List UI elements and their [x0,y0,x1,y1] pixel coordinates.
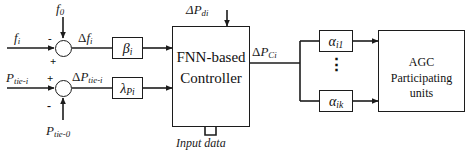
summing-junction-frequency-plus-sign: + [50,56,56,67]
agc-title-line1: AGC [379,55,464,70]
summing-junction-tie-power [55,80,72,97]
gain-block-lambda-label: λPi [113,81,142,97]
input-label-frequency-actual: fi [14,31,20,46]
alpha-vertical-ellipsis: ⋮ [319,60,353,69]
alpha-block-ik-label: αik [320,94,352,110]
input-label-tie-power-actual: Ptie-i [6,71,28,86]
summing-junction-tie-power-minus-sign: - [47,100,51,112]
fnn-controller-block[interactable]: FNN-based Controller [172,26,250,127]
input-label-frequency-reference: f0 [56,2,64,17]
input-label-tie-power-reference: Ptie-0 [46,124,70,139]
summing-junction-frequency [55,40,72,57]
signal-label-delta-f: Δfi [78,31,92,46]
signal-label-delta-pc: ΔPCi [252,45,277,60]
signal-label-delta-ptie: ΔPtie-i [72,70,103,85]
alpha-block-ik[interactable]: αik [319,90,353,112]
agc-title-line2: Participating units [379,71,464,101]
alpha-block-i1-label: αi1 [320,34,352,50]
alpha-block-i1[interactable]: αi1 [319,30,353,52]
gain-block-lambda[interactable]: λPi [112,77,143,99]
input-label-load-disturbance: ΔPdi [186,3,208,18]
fnn-controller-title-line1: FNN-based [173,49,249,66]
input-data-label: Input data [176,137,226,149]
summing-junction-frequency-minus-sign: - [48,33,52,44]
fnn-controller-title-line2: Controller [173,70,249,87]
agc-participating-units-block[interactable]: AGC Participating units [378,30,465,112]
gain-block-beta[interactable]: βi [112,37,143,59]
gain-block-beta-label: βi [113,41,142,57]
summing-junction-tie-power-plus-sign: + [47,73,53,84]
block-diagram-canvas: - + + - fi f0 Ptie-i Ptie-0 ΔPdi Input d… [0,0,470,154]
